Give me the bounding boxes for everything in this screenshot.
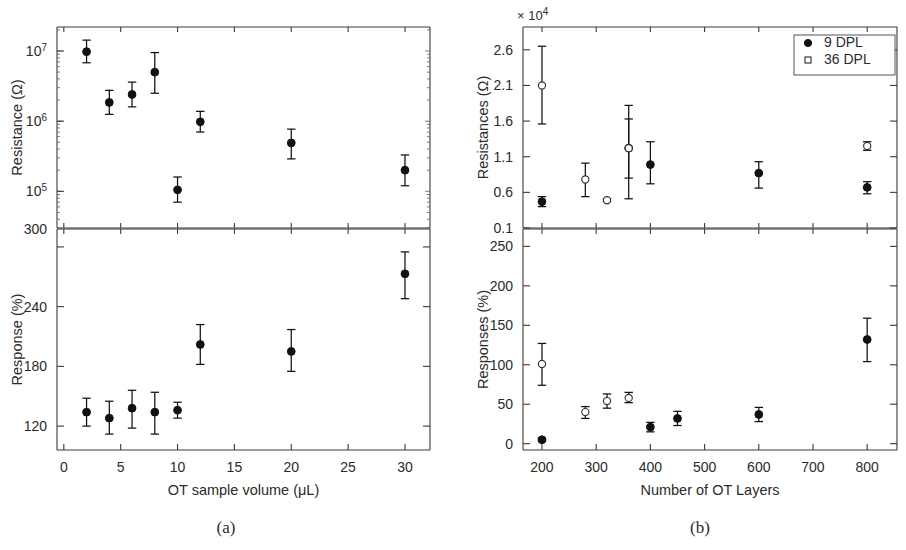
panel-b-responses-datapoint: [603, 394, 611, 408]
panel-b-resistances-ylabel: Resistances (Ω): [475, 76, 491, 180]
marker-open-circle: [625, 145, 632, 152]
panel-a-response-datapoint: [173, 402, 181, 418]
panel-a: 107106105300Resistance (Ω)12018024005101…: [9, 27, 430, 498]
x-tick-label: 25: [340, 459, 356, 475]
panel-a-resistance-datapoint: [105, 90, 113, 114]
panel-a-response-subplot: 120180240051015202530Response (%)OT samp…: [9, 229, 430, 498]
panel-b-responses-datapoint: [581, 407, 589, 419]
x-tick-label: 400: [639, 459, 663, 475]
panel-a-response-ylabel: Response (%): [9, 294, 25, 386]
panel-b-exponent-annotation: × 104: [517, 6, 549, 23]
panel-b-resistances-datapoint: [755, 162, 763, 188]
panel-b-responses-datapoint: [673, 411, 681, 425]
panel-b-resistances-datapoint: [603, 197, 611, 204]
y-tick-label: 1.1: [494, 149, 514, 165]
panel-a-response-datapoint: [105, 401, 113, 434]
marker-filled-circle: [151, 408, 159, 416]
marker-filled-circle: [863, 336, 871, 344]
panel-a-response-datapoint: [196, 325, 204, 365]
marker-filled-circle: [646, 161, 654, 169]
panel-b-resistances-datapoint: [646, 142, 654, 184]
y-tick-label: 2.6: [494, 42, 514, 58]
panel-b-resistances-subplot: 0.10.61.11.62.12.6Resistances (Ω)× 1049 …: [475, 6, 897, 236]
x-tick-label: 800: [856, 459, 880, 475]
marker-open-circle: [538, 360, 545, 367]
marker-filled-circle: [538, 198, 546, 206]
legend-label: 9 DPL: [824, 34, 863, 50]
panel-a-resistance-datapoint: [128, 82, 136, 107]
x-tick-label: 10: [170, 459, 186, 475]
y-tick-label-300: 300: [24, 221, 48, 237]
panel-a-response-datapoint: [82, 398, 90, 426]
panel-a-response-datapoint: [128, 390, 136, 428]
panel-b-responses-datapoint: [538, 436, 546, 444]
panel-b-resistances-datapoint: [538, 197, 546, 207]
marker-filled-circle: [83, 48, 91, 56]
x-tick-label: 500: [693, 459, 717, 475]
x-tick-label: 20: [283, 459, 299, 475]
marker-filled-circle: [755, 169, 763, 177]
y-tick-label: 240: [24, 299, 48, 315]
panel-a-response-datapoint: [151, 392, 159, 434]
marker-filled-circle: [174, 186, 182, 194]
x-tick-label: 200: [530, 459, 554, 475]
panel-a-resistance-ylabel: Resistance (Ω): [9, 79, 25, 175]
panel-a-resistance-datapoint: [401, 155, 409, 186]
panel-a-caption: (a): [217, 518, 236, 537]
y-tick-label: 100: [490, 357, 514, 373]
panel-a-xlabel: OT sample volume (μL): [168, 482, 320, 498]
panel-b-resistances-datapoint: [538, 46, 546, 124]
panel-b-responses-datapoint: [646, 422, 654, 431]
panel-b-responses-ylabel: Responses (%): [475, 290, 491, 389]
panel-a-resistance-subplot: 107106105300Resistance (Ω): [9, 27, 430, 237]
marker-open-circle: [625, 394, 632, 401]
marker-open-circle: [582, 409, 589, 416]
x-tick-label: 30: [397, 459, 413, 475]
marker-open-circle: [864, 142, 871, 149]
marker-filled-circle: [287, 348, 295, 356]
marker-filled-circle: [646, 423, 654, 431]
x-tick-label: 300: [584, 459, 608, 475]
y-tick-label: 250: [490, 238, 514, 254]
y-tick-label: 180: [24, 358, 48, 374]
panel-b-responses-datapoint: [624, 392, 632, 402]
y-tick-label: 200: [490, 278, 514, 294]
marker-filled-circle: [287, 139, 295, 147]
panel-a-response-datapoint: [401, 252, 409, 299]
panel-b-xlabel: Number of OT Layers: [640, 482, 779, 498]
y-tick-label: 106: [26, 112, 48, 129]
marker-filled-circle: [105, 99, 113, 107]
marker-filled-circle: [151, 68, 159, 76]
marker-filled-circle: [105, 414, 113, 422]
marker-open-circle: [603, 397, 610, 404]
panel-b: 0.10.61.11.62.12.6Resistances (Ω)× 1049 …: [475, 6, 897, 498]
legend-label: 36 DPL: [824, 51, 871, 67]
panel-b-responses-datapoint: [538, 343, 546, 385]
marker-filled-circle: [401, 166, 409, 174]
x-tick-label: 700: [801, 459, 825, 475]
marker-open-circle: [538, 82, 545, 89]
scientific-figure: 107106105300Resistance (Ω)12018024005101…: [0, 0, 906, 550]
panel-b-responses-datapoint: [755, 407, 763, 421]
y-tick-label: 1.6: [494, 113, 514, 129]
y-tick-label: 2.1: [494, 77, 514, 93]
y-tick-label: 120: [24, 418, 48, 434]
marker-filled-circle: [128, 91, 136, 99]
marker-filled-circle: [196, 341, 204, 349]
marker-open-circle: [582, 176, 589, 183]
panel-b-caption: (b): [690, 518, 710, 537]
panel-b-resistances-datapoint: [581, 163, 589, 197]
x-tick-label: 600: [747, 459, 771, 475]
marker-filled-circle: [174, 406, 182, 414]
legend-marker-filled-circle: [804, 39, 811, 46]
marker-filled-circle: [196, 118, 204, 126]
marker-filled-circle: [538, 436, 546, 444]
y-tick-label: 0.1: [494, 220, 514, 236]
panel-a-resistance-datapoint: [151, 53, 159, 94]
marker-filled-circle: [83, 408, 91, 416]
panel-b-responses-datapoint: [863, 318, 871, 361]
legend-marker-open-square: [805, 57, 811, 63]
y-tick-label: 0.6: [494, 184, 514, 200]
panel-a-resistance-datapoint: [82, 40, 90, 63]
x-tick-label: 15: [227, 459, 243, 475]
